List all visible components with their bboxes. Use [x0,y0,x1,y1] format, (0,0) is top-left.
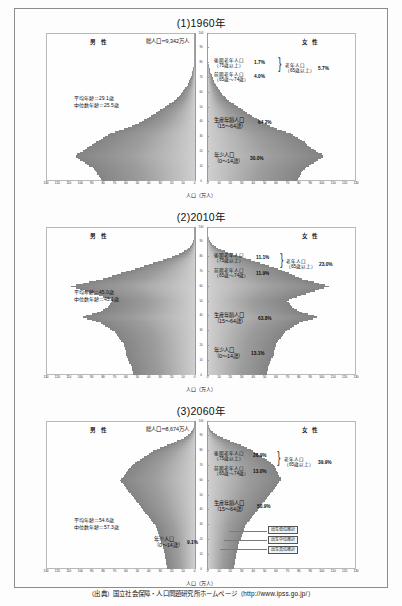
label-young-2060: 年少人口 （0～14歳） [154,536,183,548]
legend-medium-projection[interactable]: 出生中位推計 [268,536,298,544]
female-header: 女 性 [302,232,320,240]
total-population-1960: 総人口＝9,342万人 [146,37,190,45]
label-late-old-2010: 後期老年人口 （75歳以上） [214,253,244,264]
pyramid-panel-1960: (1)1960年 1009080706050403020100 男 性 女 性 … [14,12,388,208]
old-brace-2060: } [277,449,280,466]
mean-age-1960: 平均年齢＝29.1歳 [74,95,114,102]
x-axis-label-2010: 人口（万人） [46,384,356,392]
male-bars-2010 [46,227,195,375]
chart-title-1960: (1)1960年 [14,12,388,30]
label-early-old-1960: 前期老年人口 （65歳～74歳） [214,72,249,83]
pct-working-2060: 50.9% [257,504,271,509]
pct-old-2060: 39.9% [318,460,332,465]
pct-late-old-1960: 1.7% [254,60,265,65]
pct-old-2010: 23.0% [319,262,333,267]
pct-old-1960: 5.7% [318,66,329,71]
label-old-1960: 老年人口 （65歳以上） [285,63,315,74]
mean-age-2010: 平均年齢＝45.0歳 [74,289,114,296]
pct-early-old-2060: 13.0% [253,469,267,474]
total-population-2060: 総人口＝8,674万人 [146,425,190,433]
age-axis-2010: 1009080706050403020100 [195,227,208,375]
male-header: 男 性 [90,232,108,240]
label-working-2010: 生産年齢人口 （15～64歳） [214,312,246,325]
median-age-2010: 中位数年齢＝45.1歳 [74,296,119,303]
pct-young-2060: 9.1% [187,540,198,545]
page-root: (1)1960年 1009080706050403020100 男 性 女 性 … [0,0,402,606]
median-age-1960: 中位数年齢＝25.5歳 [74,102,119,109]
label-early-old-2060: 前期老年人口 （65歳～74歳） [214,466,249,477]
female-header: 女 性 [302,426,320,434]
pyramid-panel-2010: (2)2010年 1009080706050403020100 男 性 女 性 … [14,206,388,402]
plot-area-1960: 1009080706050403020100 男 性 女 性 総人口＝9,342… [46,33,356,181]
pct-working-1960: 64.2% [258,120,272,125]
label-old-2010: 老年人口 （65歳以上） [286,259,316,270]
label-late-old-2060: 後期老年人口 （75歳以上） [214,451,244,462]
label-old-2060: 老年人口 （65歳以上） [284,457,314,468]
pct-working-2010: 63.8% [258,316,272,321]
label-young-1960: 年少人口 （0～14歳） [214,152,243,165]
source-citation: （出典）国立社会保障・人口問題研究所ホームページ（http://www.ipss… [0,589,402,598]
age-axis-1960: 1009080706050403020100 [195,33,208,181]
male-bars-1960 [46,33,195,181]
old-brace-2010: } [280,251,283,268]
chart-title-2060: (3)2060年 [14,400,388,418]
male-header: 男 性 [90,426,108,434]
pct-young-2010: 13.1% [251,351,265,356]
pct-young-1960: 30.0% [250,156,264,161]
old-brace-1960: } [278,55,281,72]
age-axis-2060: 1009080706050403020100 [195,421,208,569]
pct-early-old-1960: 4.0% [254,74,265,79]
male-header: 男 性 [90,38,108,46]
x-axis-label-2060: 人口（万人） [46,578,356,586]
female-header: 女 性 [302,38,320,46]
pct-late-old-2060: 26.9% [253,453,267,458]
mean-age-2060: 平均年齢＝54.6歳 [74,517,114,524]
pct-early-old-2010: 11.9% [256,271,269,276]
median-age-2060: 中位数年齢＝57.3歳 [74,524,119,531]
chart-title-2010: (2)2010年 [14,206,388,224]
leader-line-medium [224,540,267,541]
leader-line-low [229,531,267,532]
legend-high-projection[interactable]: 出生高位推計 [268,546,298,554]
leader-line-high [220,549,267,550]
label-working-2060: 生産年齢人口 （15～64歳） [214,500,246,513]
label-working-1960: 生産年齢人口 （15～64歳） [214,117,246,130]
plot-area-2060: 1009080706050403020100 男 性 女 性 総人口＝8,674… [46,421,356,569]
pyramid-panel-2060: (3)2060年 1009080706050403020100 男 性 女 性 … [14,400,388,588]
label-late-old-1960: 後期老年人口 （75歳以上） [214,58,244,69]
plot-area-2010: 1009080706050403020100 男 性 女 性 平均年齢＝45.0… [46,227,356,375]
legend-low-projection[interactable]: 出生低位推計 [268,526,298,534]
x-axis-label-1960: 人口（万人） [46,190,356,198]
pct-late-old-2010: 11.1% [256,255,269,260]
label-early-old-2010: 前期老年人口 （65歳～74歳） [214,268,249,279]
label-young-2010: 年少人口 （0～14歳） [214,347,243,360]
